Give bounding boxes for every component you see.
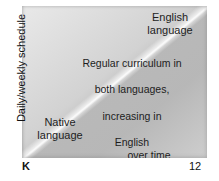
dual-language-schedule-figure: English language Native language Regular… xyxy=(0,0,219,181)
region-label-english-language: English language xyxy=(139,11,201,37)
center-annotation-line-5: over time xyxy=(68,149,196,158)
x-axis-tick-start: K xyxy=(22,160,30,172)
x-axis-tick-end: 12 xyxy=(189,160,201,172)
center-annotation: Regular curriculum in both languages, in… xyxy=(68,44,196,158)
plot-area: English language Native language Regular… xyxy=(22,6,207,158)
center-annotation-line-3: increasing in xyxy=(103,110,162,122)
center-annotation-line-1: Regular curriculum in xyxy=(82,57,181,69)
center-annotation-line-2: both languages, xyxy=(95,83,170,95)
cropped-caption-strip xyxy=(92,0,170,3)
center-annotation-line-4: English xyxy=(115,136,149,148)
y-axis-label: Daily/weekly schedule xyxy=(15,1,27,135)
